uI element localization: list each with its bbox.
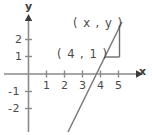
x-tick-label-3: 3 [79, 80, 87, 91]
y-tick-label-neg1: -1 [8, 86, 20, 97]
x-axis-label: x [139, 66, 147, 77]
y-axis-arrowhead [25, 14, 32, 21]
x-tick-label-5: 5 [115, 80, 123, 91]
y-tick-label-2: 2 [15, 34, 23, 45]
coordinate-plane-figure: x y 1 2 3 4 5 2 1 -1 -2 ( x , y ) ( 4 , … [0, 0, 152, 135]
y-tick-label-1: 1 [15, 51, 23, 62]
point-label-4-1: ( 4 , 1 ) [57, 49, 108, 60]
plotted-line [68, 22, 122, 132]
x-tick-label-2: 2 [61, 80, 69, 91]
x-tick-label-4: 4 [97, 80, 105, 91]
y-tick-label-neg2: -2 [8, 103, 20, 114]
x-tick-label-1: 1 [43, 80, 51, 91]
point-label-xy: ( x , y ) [73, 18, 123, 29]
y-axis-label: y [25, 1, 33, 12]
